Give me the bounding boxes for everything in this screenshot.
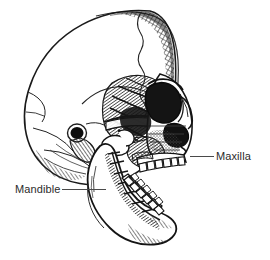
maxilla-leader-line <box>190 156 214 157</box>
skull-illustration <box>0 0 270 260</box>
label-mandible: Mandible <box>15 183 60 195</box>
label-maxilla: Maxilla <box>216 150 251 162</box>
mandible-leader-line <box>62 189 106 190</box>
upper-teeth <box>132 152 186 172</box>
